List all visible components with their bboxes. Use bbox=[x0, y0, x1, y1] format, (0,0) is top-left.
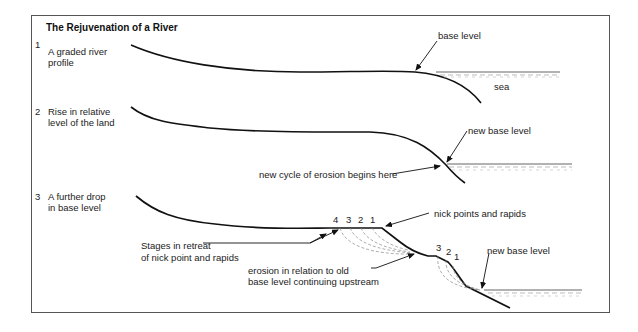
panel-2-profile bbox=[131, 107, 572, 183]
panel-1-profile bbox=[131, 41, 560, 103]
river-profiles-drawing bbox=[0, 0, 638, 332]
panel-3-profile bbox=[136, 196, 582, 308]
